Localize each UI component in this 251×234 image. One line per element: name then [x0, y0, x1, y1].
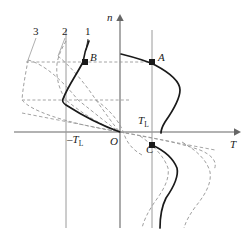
curve-label-1: 1 [85, 26, 91, 37]
load-torque-positive-subscript: L [144, 120, 149, 129]
solid-characteristic-curve-upper-right [121, 54, 180, 133]
point-label-c: C [146, 144, 153, 155]
dashed-characteristic-curve-3 [22, 60, 120, 132]
operating-point-b-marker [82, 59, 88, 65]
origin-label: O [110, 136, 118, 147]
t-axis-label: T [230, 139, 236, 150]
load-torque-negative-symbol: –T [67, 133, 79, 145]
point-label-a: A [158, 52, 165, 63]
axes-group [14, 14, 241, 228]
curve-label-2: 2 [62, 26, 68, 37]
dashed-characteristic-curves-lower-right [120, 132, 215, 228]
load-torque-negative-subscript: L [79, 139, 84, 148]
dashed-characteristic-curve-upper-right [96, 100, 142, 155]
n-axis-label: n [107, 12, 113, 23]
point-label-b: B [90, 52, 97, 63]
curve-label-3: 3 [33, 26, 39, 37]
t-axis-arrowhead [234, 128, 241, 135]
n-axis-arrowhead [116, 14, 123, 21]
leader-line-curve-2 [58, 38, 65, 56]
reference-dashed-lines-group [22, 62, 152, 100]
operating-point-markers-group [82, 59, 155, 148]
speed-torque-characteristic-figure: n T O 3 2 1 B A C TL –TL [0, 0, 251, 234]
solid-characteristic-curve-lower-right [152, 145, 177, 228]
load-torque-positive-label: TL [138, 115, 149, 129]
load-torque-negative-label: –TL [67, 134, 83, 148]
curve-label-leader-lines-group [28, 38, 88, 60]
leader-line-curve-3 [28, 38, 36, 60]
operating-point-a-marker [149, 59, 155, 65]
